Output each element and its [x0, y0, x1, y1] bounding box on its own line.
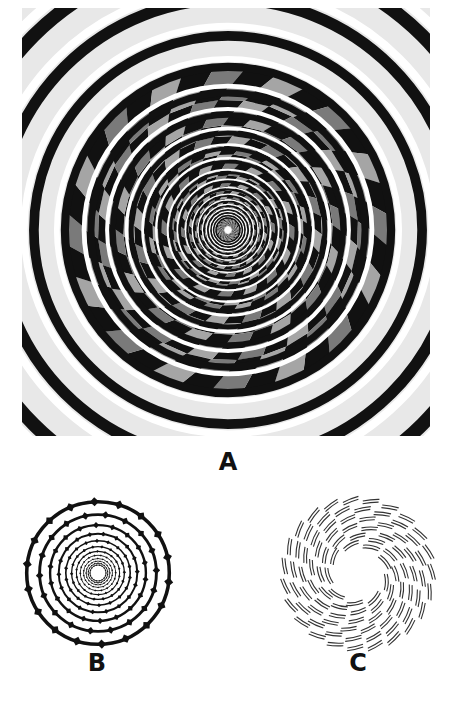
panel-c-label: C: [338, 651, 378, 675]
diamond-ring-illustration: [17, 492, 179, 654]
arc-segment-circles-illustration: [277, 493, 439, 655]
panel-b-spiral-diamonds-image: [17, 492, 179, 654]
panel-a-label: A: [208, 450, 248, 474]
panel-b-label: B: [77, 651, 117, 675]
fraser-spiral-illustration: [22, 8, 430, 436]
panel-c-arc-circles-image: [277, 493, 439, 655]
panel-a-fraser-spiral-image: [22, 8, 430, 436]
